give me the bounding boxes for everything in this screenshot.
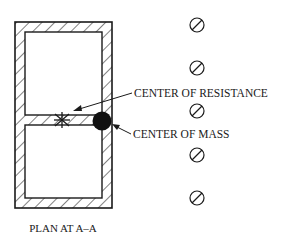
column-icon [190, 148, 204, 162]
lower-cell-opening [25, 125, 102, 198]
column-symbols [190, 18, 204, 205]
center-of-mass-icon [93, 112, 112, 131]
structural-plan-diagram: CENTER OF RESISTANCE CENTER OF MASS PLAN… [0, 0, 286, 245]
column-icon [190, 18, 204, 32]
upper-cell-opening [25, 32, 102, 115]
column-icon [190, 191, 204, 205]
center-of-resistance-icon [54, 112, 70, 128]
mass-leader-arrow [112, 124, 131, 134]
plan-caption: PLAN AT A–A [29, 222, 97, 234]
center-of-mass-label: CENTER OF MASS [133, 128, 230, 140]
column-icon [190, 61, 204, 75]
center-of-resistance-label: CENTER OF RESISTANCE [134, 87, 268, 99]
column-icon [190, 104, 204, 118]
